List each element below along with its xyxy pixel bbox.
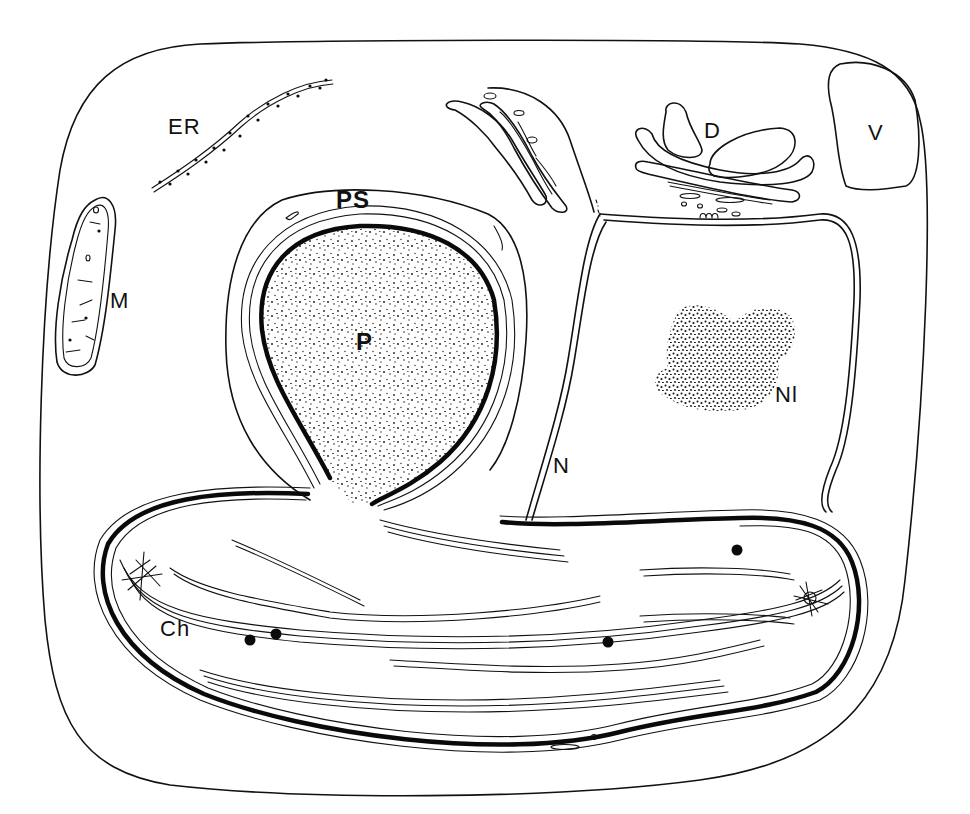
label-n: N <box>553 453 570 478</box>
label-p: P <box>356 328 373 355</box>
endoplasmic-reticulum: ER <box>152 78 333 192</box>
label-v: V <box>868 120 884 145</box>
golgi-apparatus-left <box>446 88 600 216</box>
label-ps: PS <box>336 186 370 213</box>
label-ch: Ch <box>160 616 190 641</box>
pyrenoid: P <box>241 206 514 510</box>
label-nl: Nl <box>775 382 798 407</box>
chloroplast: Ch <box>94 487 868 752</box>
label-d: D <box>704 118 721 143</box>
label-m: M <box>110 288 129 313</box>
label-er: ER <box>168 114 201 139</box>
mitochondrion: M <box>55 198 129 375</box>
nucleolus: Nl <box>655 305 798 411</box>
cell-wall <box>40 40 927 795</box>
vacuole: V <box>828 63 918 190</box>
dictyosome: D <box>636 103 814 218</box>
plant-cell-diagram: ER M D <box>0 0 970 814</box>
